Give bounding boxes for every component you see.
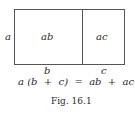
- outer-rectangle: [14, 9, 125, 65]
- region-divider: [82, 9, 83, 65]
- side-label-a: a: [5, 32, 11, 42]
- distributive-equation: a (b + c) = ab + ac: [18, 77, 134, 87]
- region-label-ab: ab: [41, 32, 53, 42]
- region-label-ac: ac: [96, 32, 108, 42]
- width-label-c: c: [101, 66, 107, 76]
- width-label-b: b: [44, 66, 50, 76]
- figure-caption: Fig. 16.1: [51, 96, 92, 106]
